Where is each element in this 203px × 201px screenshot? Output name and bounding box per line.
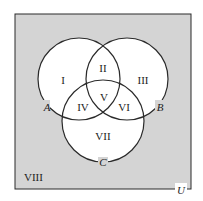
region-vi-label: VI [118,101,130,113]
set-c-label: C [99,156,107,168]
region-ii-label: II [99,62,107,74]
region-vii-label: VII [95,130,111,142]
region-v-label: V [100,91,108,103]
region-i-label: I [61,74,65,86]
set-b-label: B [157,101,164,113]
venn-diagram: I II III IV V VI VII VIII A B C U [0,0,203,201]
region-iii-label: III [138,74,149,86]
region-iv-label: IV [77,101,89,113]
universe-label: U [177,184,186,196]
region-viii-label: VIII [24,171,43,183]
set-a-label: A [43,101,51,113]
